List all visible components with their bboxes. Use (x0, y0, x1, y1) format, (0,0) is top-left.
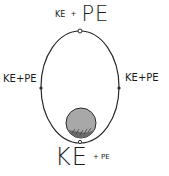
left-point-marker (39, 86, 42, 89)
label-left: KE+PE (3, 74, 37, 84)
top-point-marker (78, 29, 82, 33)
label-bottom: KE + PE (55, 145, 110, 169)
label-right: KE+PE (125, 73, 159, 83)
label-bottom-ke: KE (55, 143, 88, 171)
label-top: KE + PE (55, 4, 109, 25)
label-top-pe: PE (81, 2, 109, 26)
label-top-ke: KE (55, 10, 65, 19)
ball (66, 108, 96, 138)
right-point-marker (117, 86, 120, 89)
label-bottom-pe: + PE (93, 153, 110, 161)
label-top-plus: + (70, 10, 76, 18)
